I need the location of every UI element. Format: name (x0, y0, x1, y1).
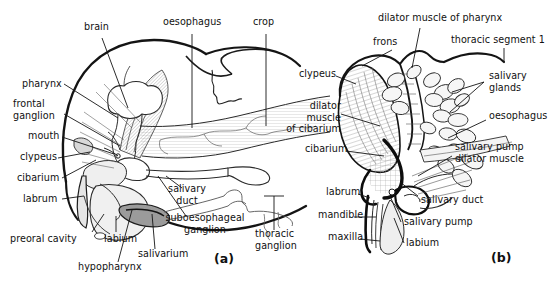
label-salivary-duct: salivaryduct (155, 183, 219, 206)
label-salivary-pump-dilator-muscle: salivary pumpdilator muscle (455, 141, 524, 164)
label-salivary-duct-b: salivary duct (421, 194, 483, 206)
label-labrum: labrum (23, 193, 57, 205)
label-cibarium: cibarium (17, 172, 59, 184)
label-pharynx: pharynx (22, 78, 62, 90)
label-oesophagus: oesophagus (163, 16, 221, 28)
anatomy-figure: brain oesophagus crop pharynx frontalgan… (0, 0, 559, 288)
label-oesophagus-b: oesophagus (489, 110, 547, 122)
label-dilator-muscle-of-cibarium: dilatormuscleof cibarium (275, 100, 341, 135)
label-preoral-cavity: preoral cavity (10, 233, 77, 245)
label-dilator-muscle-of-pharynx: dilator muscle of pharynx (378, 12, 502, 24)
label-clypeus: clypeus (20, 151, 57, 163)
label-maxilla: maxilla (328, 231, 363, 243)
label-frons: frons (373, 36, 397, 48)
panel-caption-a: (a) (214, 251, 234, 266)
label-brain: brain (84, 21, 109, 33)
label-labium: labium (104, 233, 137, 245)
label-clypeus-b: clypeus (299, 68, 336, 80)
label-hypopharynx: hypopharynx (78, 261, 142, 273)
label-crop: crop (253, 16, 274, 28)
label-thoracic-ganglion: thoracicganglion (255, 228, 297, 251)
label-suboesophageal-ganglion: suboesophagealganglion (157, 212, 253, 235)
label-salivary-pump: salivary pump (404, 216, 473, 228)
label-mouth: mouth (28, 130, 59, 142)
label-salivarium: salivarium (138, 248, 188, 260)
label-cibarium-b: cibarium (305, 143, 347, 155)
label-labrum-b: labrum (326, 186, 360, 198)
panel-caption-b: (b) (491, 250, 511, 265)
label-labium-b: labium (406, 237, 439, 249)
label-salivary-glands: salivaryglands (489, 70, 527, 93)
label-mandible: mandible (318, 209, 363, 221)
label-frontal-ganglion: frontalganglion (13, 98, 55, 121)
label-thoracic-segment-1: thoracic segment 1 (451, 34, 545, 46)
